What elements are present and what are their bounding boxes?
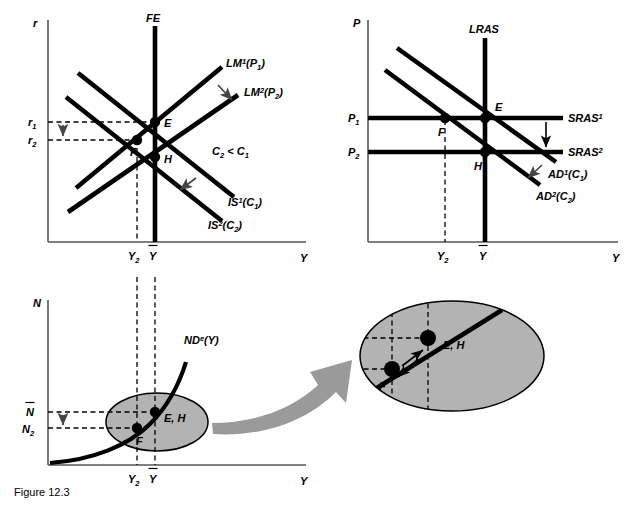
ad-as-y-axis-label: P [353,17,361,29]
curve-is2 [66,97,222,221]
svg-text:LM2(P2): LM2(P2) [244,86,283,101]
is-shift-arrow [180,178,196,190]
annotation-c2-lt-c1: C2 < C1 [212,145,249,160]
svg-text:LM1(P1): LM1(P1) [226,57,265,72]
ad-point-e-label: E [495,101,503,113]
ad-point-e-marker [480,113,490,123]
labor-y-axis-label: N [33,297,42,309]
curve-ad2 [385,70,540,185]
svg-text:Y: Y [479,250,488,262]
ad-tick-ybar: Y [479,246,489,263]
tick-p2: P2 [348,146,360,161]
svg-text:IS2(C2): IS2(C2) [208,219,242,234]
point-e-label: E [164,117,172,129]
svg-text:NDe(Y): NDe(Y) [184,334,219,347]
tick-r2: r2 [28,134,37,149]
curve-is2-label: IS2(C2) [208,219,242,234]
svg-text:AD2(C2): AD2(C2) [535,190,576,205]
lm-shift-arrow [218,85,232,100]
panel-ad-as: P Y LRAS E F H P1 P2 Y2 Y SRAS1 S [348,17,621,265]
curve-fe-label: FE [146,12,161,24]
ad-tick-y2: Y2 [437,250,449,265]
svg-text:Y: Y [149,250,158,262]
svg-text:IS1(C1): IS1(C1) [228,196,262,211]
point-e-marker [150,117,160,127]
curve-sras1-label: SRAS1 [568,112,603,125]
point-h-marker [150,152,160,162]
inset-ellipse [360,301,544,411]
tick-r1: r1 [28,116,36,131]
labor-tick-y2: Y2 [128,473,140,488]
figure-root: r Y FE E F H r1 r2 Y2 Y [0,0,631,518]
curve-lm1-label: LM1(P1) [226,57,265,72]
curve-ad1-label: AD1(C1) [547,168,588,183]
labor-point-f-label: F [136,435,143,447]
labor-point-f-marker [132,423,142,433]
tick-ybar: Y [149,246,159,263]
panel-inset: E, H F [348,295,544,420]
tick-nbar: N [26,403,36,419]
svg-text:AD1(C1): AD1(C1) [547,168,588,183]
labor-point-eh-label: E, H [164,412,186,424]
svg-text:Y: Y [149,473,158,485]
curve-ad2-label: AD2(C2) [535,190,576,205]
svg-text:N: N [26,406,35,418]
magnifier-arrow [212,360,352,434]
figure-caption: Figure 12.3 [14,486,70,498]
labor-point-eh-marker [150,407,160,417]
ad-point-h-label: H [474,160,483,172]
labor-tick-ybar: Y [149,469,159,486]
panel-labor: N Y E, H F N N2 Y2 Y [22,277,309,488]
curve-lras-label: LRAS [469,23,500,35]
ad-point-f-label: F [438,126,445,138]
panel-is-lm: r Y FE E F H r1 r2 Y2 Y [28,12,309,265]
point-f-label: F [130,146,137,158]
figure-svg: r Y FE E F H r1 r2 Y2 Y [0,0,631,518]
curve-ad1 [397,48,556,162]
ad-as-x-axis-label: Y [612,252,621,264]
curve-lm2-label: LM2(P2) [244,86,283,101]
is-lm-y-axis-label: r [33,17,38,29]
point-f-marker [132,135,142,145]
is-lm-x-axis-label: Y [300,252,309,264]
tick-n2: N2 [22,423,35,438]
point-h-label: H [164,153,173,165]
labor-x-axis-label: Y [300,475,309,487]
curve-sras2-label: SRAS2 [568,146,604,159]
inset-point-f-marker [384,361,400,377]
tick-p1: P1 [348,112,360,127]
inset-point-eh-label: E, H [443,339,465,351]
inset-point-f-label: F [379,380,386,392]
ad-point-f-marker [440,113,450,123]
inset-point-eh-marker [420,330,436,346]
ad-point-h-marker [480,147,490,157]
ad-shift-arrow [528,165,542,178]
curve-nde-label: NDe(Y) [184,334,219,347]
tick-y2: Y2 [128,250,140,265]
curve-is1-label: IS1(C1) [228,196,262,211]
